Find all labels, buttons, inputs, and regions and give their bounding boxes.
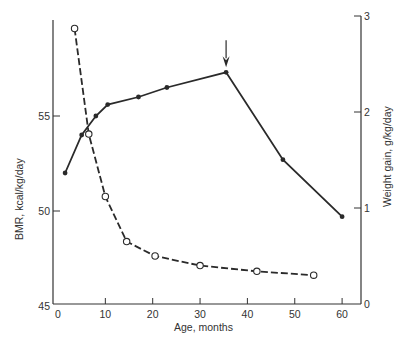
- y-left-tick-label: 45: [38, 300, 50, 312]
- data-point: [123, 238, 129, 244]
- y-right-tick-label: 3: [364, 10, 370, 22]
- x-tick-label: 60: [336, 308, 348, 320]
- chart: 0102030405060 455055 0123 Age, months BM…: [0, 0, 405, 344]
- x-tick-label: 20: [147, 308, 159, 320]
- data-point: [79, 133, 84, 138]
- x-axis-ticks: 0102030405060: [55, 298, 348, 320]
- data-point: [152, 253, 158, 259]
- y-left-tick-label: 55: [38, 110, 50, 122]
- data-point: [254, 268, 260, 274]
- data-point: [310, 272, 316, 278]
- y-axis-left-ticks: 455055: [38, 110, 60, 312]
- data-point: [340, 214, 345, 219]
- y-right-tick-label: 1: [364, 202, 370, 214]
- x-tick-label: 50: [289, 308, 301, 320]
- peak-arrow-icon: [223, 40, 230, 67]
- x-tick-label: 40: [242, 308, 254, 320]
- x-axis-title: Age, months: [174, 321, 233, 333]
- y-left-tick-label: 50: [38, 205, 50, 217]
- x-tick-label: 0: [55, 308, 61, 320]
- y-right-tick-label: 2: [364, 106, 370, 118]
- data-point: [105, 102, 110, 107]
- data-point: [224, 70, 229, 75]
- x-tick-label: 10: [100, 308, 112, 320]
- data-point: [165, 85, 170, 90]
- data-point: [93, 114, 98, 119]
- data-point: [197, 262, 203, 268]
- y-right-tick-label: 0: [364, 298, 370, 310]
- y-axis-right-title: Weight gain, g/kg/day: [381, 105, 393, 207]
- y-axis-right-ticks: 0123: [354, 10, 370, 310]
- data-point: [281, 157, 286, 162]
- data-point: [86, 131, 92, 137]
- axes: [53, 16, 361, 304]
- data-point: [102, 193, 108, 199]
- data-point: [63, 171, 68, 176]
- data-point: [136, 95, 141, 100]
- y-axis-left-title: BMR, kcal/kg/day: [13, 158, 25, 240]
- x-tick-label: 30: [194, 308, 206, 320]
- series-weight-gain: [71, 25, 317, 278]
- data-point: [71, 25, 77, 31]
